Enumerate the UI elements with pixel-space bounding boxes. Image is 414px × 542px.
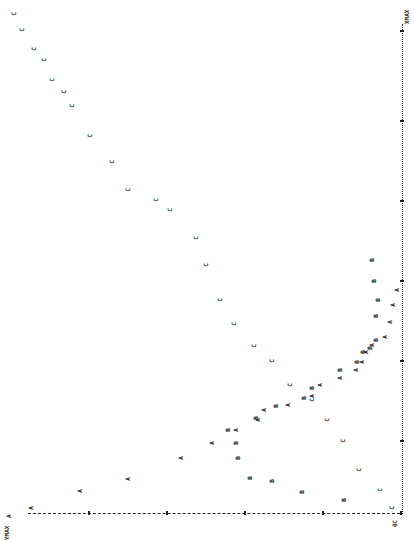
data-point-b: B bbox=[354, 359, 360, 365]
data-point-b: B bbox=[337, 367, 343, 373]
data-point-c: C bbox=[356, 467, 362, 473]
data-point-a: A bbox=[209, 440, 215, 446]
data-point-c: C bbox=[340, 438, 346, 444]
data-point-c: C bbox=[167, 207, 173, 213]
data-point-c: C bbox=[193, 235, 199, 241]
xmax-label: XMAX bbox=[404, 10, 410, 24]
y-axis-tick bbox=[400, 511, 402, 515]
data-point-b: B bbox=[269, 478, 275, 484]
data-point-b: B bbox=[299, 489, 305, 495]
data-point-a: A bbox=[178, 455, 184, 461]
y-axis-tick bbox=[322, 511, 324, 515]
x-axis-tick bbox=[400, 200, 404, 202]
data-point-a: A bbox=[387, 319, 393, 325]
data-point-b: B bbox=[235, 455, 241, 461]
data-point-c: C bbox=[269, 358, 275, 364]
data-point-c: C bbox=[49, 77, 55, 83]
data-point-c: C bbox=[109, 159, 115, 165]
data-point-c: C bbox=[287, 382, 293, 388]
data-point-a: A bbox=[390, 302, 396, 308]
data-point-a: A bbox=[233, 427, 239, 433]
data-point-c: C bbox=[87, 133, 93, 139]
data-point-a: A bbox=[337, 375, 343, 381]
data-point-c: C bbox=[61, 89, 67, 95]
data-point-a: A bbox=[77, 488, 83, 494]
data-point-b: B bbox=[360, 349, 366, 355]
ymax-marker: A bbox=[6, 514, 12, 518]
x-axis-tick bbox=[400, 120, 404, 122]
data-point-b: B bbox=[233, 440, 239, 446]
data-point-b: B bbox=[247, 475, 253, 481]
x-axis-tick bbox=[400, 280, 404, 282]
data-point-b: B bbox=[369, 257, 375, 263]
data-point-b: B bbox=[373, 337, 379, 343]
data-point-b: B bbox=[375, 297, 381, 303]
y-axis-tick bbox=[88, 511, 90, 515]
data-point-a: A bbox=[317, 382, 323, 388]
data-point-a: A bbox=[28, 505, 34, 511]
data-point-b: B bbox=[371, 278, 377, 284]
y-axis-tick bbox=[166, 511, 168, 515]
data-point-c: C bbox=[217, 297, 223, 303]
data-point-c: C bbox=[41, 57, 47, 63]
x-axis-tick bbox=[400, 30, 404, 32]
ymax-label: YMAX bbox=[4, 526, 10, 540]
data-point-a: A bbox=[285, 402, 291, 408]
data-point-c: C bbox=[231, 321, 237, 327]
x-axis-tick bbox=[400, 440, 404, 442]
data-point-b: B bbox=[273, 403, 279, 409]
data-point-b: B bbox=[367, 345, 373, 351]
data-point-c: C bbox=[389, 505, 395, 511]
data-point-b: B bbox=[301, 395, 307, 401]
data-point-b: B bbox=[253, 415, 259, 421]
data-point-c: C bbox=[31, 46, 37, 52]
data-point-c: C bbox=[377, 487, 383, 493]
data-point-c: C bbox=[392, 519, 398, 525]
data-point-c: C bbox=[324, 417, 330, 423]
y-axis-tick bbox=[244, 511, 246, 515]
data-point-c: C bbox=[309, 397, 315, 403]
data-point-b: B bbox=[309, 385, 315, 391]
data-point-a: A bbox=[353, 367, 359, 373]
y-axis-line bbox=[28, 513, 400, 514]
line-printer-plot: YMAX A 0 XMAX AAAAAAAAAAAAAAAAAAAABBBBBB… bbox=[0, 0, 414, 542]
data-point-a: A bbox=[261, 407, 267, 413]
x-axis-tick bbox=[400, 360, 404, 362]
data-point-c: C bbox=[153, 197, 159, 203]
data-point-c: C bbox=[11, 11, 17, 17]
data-point-c: C bbox=[125, 187, 131, 193]
data-point-c: C bbox=[19, 27, 25, 33]
data-point-a: A bbox=[394, 287, 400, 293]
data-point-c: C bbox=[203, 262, 209, 268]
data-point-b: B bbox=[225, 427, 231, 433]
data-point-b: B bbox=[341, 497, 347, 503]
data-point-a: A bbox=[125, 476, 131, 482]
data-point-a: A bbox=[382, 334, 388, 340]
data-point-c: C bbox=[69, 103, 75, 109]
data-point-c: C bbox=[251, 343, 257, 349]
data-point-b: B bbox=[373, 313, 379, 319]
